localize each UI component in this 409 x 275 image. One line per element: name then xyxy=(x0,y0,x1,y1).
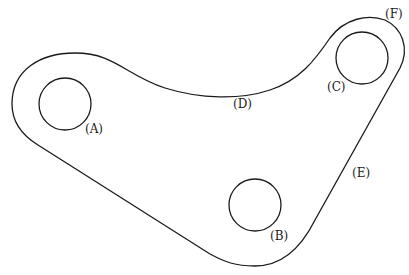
label-f: (F) xyxy=(385,7,403,21)
hole-b xyxy=(229,179,281,231)
label-a: (A) xyxy=(85,122,103,136)
hole-a xyxy=(39,78,91,130)
plate-outline xyxy=(12,17,404,266)
link-plate-diagram: (A) (B) (C) (D) (E) (F) xyxy=(0,0,409,275)
label-b: (B) xyxy=(270,229,288,243)
label-e: (E) xyxy=(352,166,370,180)
label-d: (D) xyxy=(233,97,252,111)
hole-c xyxy=(336,32,388,84)
label-c: (C) xyxy=(327,80,346,94)
